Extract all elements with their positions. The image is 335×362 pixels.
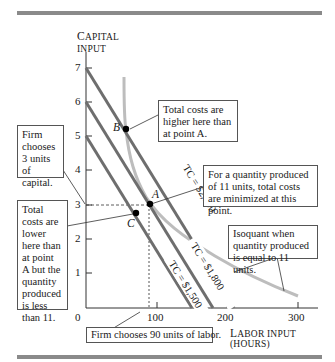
point-b-label: B	[113, 121, 120, 133]
y-axis-title-cap: C	[77, 30, 85, 42]
origin-label: 0	[75, 311, 81, 323]
y-ticks	[86, 68, 92, 273]
y-tick-7: 7	[75, 61, 81, 73]
annotation-capital-choice: Firm chooses 3 units of capital.	[17, 125, 64, 178]
y-axis-title-rest: APITAL	[85, 32, 119, 42]
x-tick-200: 200	[217, 311, 234, 323]
leader-capital-choice	[63, 170, 85, 204]
x-axis-title: LABOR INPUT (HOURS)	[230, 327, 335, 349]
y-tick-4: 4	[75, 163, 81, 175]
point-a-label: A	[152, 188, 159, 200]
isocost-label-1800: TC = $1,800	[189, 241, 227, 292]
annotation-lower-cost: Total costs are lower here than at point…	[17, 200, 68, 310]
point-c	[133, 210, 139, 216]
annotation-minimized: For a quantity produced of 11 units, tot…	[203, 165, 318, 207]
point-b	[123, 126, 129, 132]
leader-lower-cost	[67, 214, 133, 226]
y-tick-5: 5	[75, 129, 81, 141]
x-tick-100: 100	[147, 311, 164, 323]
point-a	[147, 201, 153, 207]
leader-higher-cost	[130, 115, 158, 129]
y-axis-title-line2: INPUT	[77, 44, 106, 54]
annotation-isoquant: Isoquant when quantity produced is equal…	[228, 225, 318, 259]
y-tick-3: 3	[75, 198, 81, 210]
point-c-label: C	[127, 217, 135, 229]
bottom-rule	[17, 355, 322, 359]
x-tick-300: 300	[288, 311, 305, 323]
y-tick-1: 1	[75, 266, 81, 278]
annotation-higher-cost: Total costs are higher here than at poin…	[158, 100, 238, 142]
y-axis-title: CAPITAL	[77, 30, 119, 42]
y-tick-6: 6	[75, 95, 81, 107]
x-axis-title-rest: ABOR INPUT (HOURS)	[230, 329, 296, 349]
y-tick-2: 2	[75, 232, 81, 244]
top-rule	[17, 11, 322, 15]
isocost-line-1500	[86, 136, 192, 308]
annotation-labor-choice: Firm chooses 90 units of labor.	[86, 327, 213, 343]
